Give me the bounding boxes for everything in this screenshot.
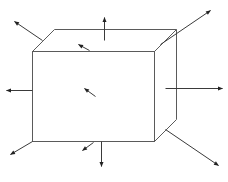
cuboid-normals-diagram xyxy=(0,0,228,182)
normal-bottom-right-edge-arrow-icon xyxy=(166,130,219,166)
top-left-depth-edge xyxy=(33,30,55,52)
normal-top-right-corner-arrow-icon xyxy=(161,11,211,45)
cuboid xyxy=(33,30,177,142)
normal-bottom-front-inner-arrow-icon xyxy=(83,143,94,151)
normal-vectors xyxy=(7,11,223,167)
normal-bottom-left-corner-arrow-icon xyxy=(11,142,33,155)
bottom-right-depth-edge xyxy=(155,120,177,142)
front-face xyxy=(33,52,155,142)
normal-top-face-inner-arrow-icon xyxy=(79,45,90,51)
normal-front-face-inner-arrow-icon xyxy=(85,89,96,97)
normal-top-left-edge-arrow-icon xyxy=(15,22,43,41)
